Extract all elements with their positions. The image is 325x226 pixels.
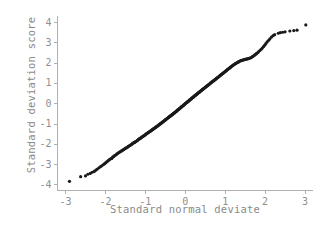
data-point	[295, 29, 298, 32]
y-axis-ticks: -4-3-2-101234	[39, 17, 57, 190]
x-axis-label: Standard normal deviate	[57, 203, 313, 215]
y-tick-label: 0	[45, 98, 51, 109]
y-tick-label: -3	[39, 159, 51, 170]
y-tick-label: -2	[39, 138, 51, 149]
data-point	[304, 23, 307, 26]
data-point	[79, 175, 82, 178]
scatter-points	[68, 23, 308, 183]
y-tick-label: -1	[39, 118, 51, 129]
data-point	[283, 30, 286, 33]
y-tick-label: 4	[45, 17, 51, 28]
y-tick-label: 1	[45, 77, 51, 88]
qq-plot-figure: -3-2-10123 -4-3-2-101234 Standard deviat…	[0, 0, 325, 226]
data-point	[288, 29, 291, 32]
y-tick-label: -4	[39, 179, 51, 190]
y-tick-label: 2	[45, 57, 51, 68]
y-axis-label: Standard deviation score	[22, 0, 40, 190]
data-point	[68, 180, 71, 183]
data-point	[273, 33, 276, 36]
y-tick-label: 3	[45, 37, 51, 48]
data-point	[292, 29, 295, 32]
plot-canvas: -3-2-10123 -4-3-2-101234	[0, 0, 325, 226]
